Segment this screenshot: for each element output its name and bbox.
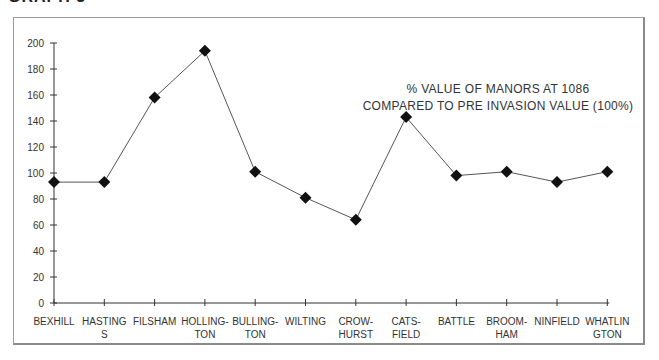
x-category-label: WHATLIN [585, 316, 629, 327]
data-point-diamond-marker [249, 166, 261, 178]
x-category-label: BEXHILL [33, 316, 75, 327]
x-category-label: HURST [339, 329, 373, 340]
y-tick-label: 80 [33, 194, 45, 205]
y-tick-label: 140 [27, 116, 44, 127]
y-tick-label: 200 [27, 38, 44, 49]
y-tick-label: 0 [38, 298, 44, 309]
chart-title-line: % VALUE OF MANORS AT 1086 [407, 82, 590, 96]
y-tick-label: 120 [27, 142, 44, 153]
x-category-label: HASTING [82, 316, 127, 327]
series-line [54, 51, 607, 220]
data-point-diamond-marker [601, 166, 613, 178]
x-category-label: BROOM- [486, 316, 527, 327]
data-point-diamond-marker [300, 192, 312, 204]
x-category-label: FIELD [392, 329, 420, 340]
x-category-label: S [101, 329, 108, 340]
x-category-label: GTON [593, 329, 622, 340]
x-category-label: HAM [496, 329, 518, 340]
x-category-label: NINFIELD [534, 316, 580, 327]
x-category-label: TON [245, 329, 266, 340]
x-category-label: CATS- [391, 316, 420, 327]
y-tick-label: 180 [27, 64, 44, 75]
x-category-label: BULLING- [232, 316, 278, 327]
data-point-diamond-marker [98, 176, 110, 188]
x-category-label: TON [194, 329, 215, 340]
line-chart: 020406080100120140160180200BEXHILLHASTIN… [0, 0, 659, 360]
x-category-label: FILSHAM [133, 316, 176, 327]
data-point-diamond-marker [48, 176, 60, 188]
y-tick-label: 100 [27, 168, 44, 179]
x-category-label: CROW- [338, 316, 373, 327]
x-category-label: HOLLING- [181, 316, 228, 327]
y-tick-label: 40 [33, 246, 45, 257]
y-tick-label: 160 [27, 90, 44, 101]
data-point-diamond-marker [551, 176, 563, 188]
y-tick-label: 20 [33, 272, 45, 283]
data-point-diamond-marker [350, 214, 362, 226]
y-tick-label: 60 [33, 220, 45, 231]
x-category-label: BATTLE [438, 316, 475, 327]
chart-title-line: COMPARED TO PRE INVASION VALUE (100%) [363, 99, 634, 113]
data-point-diamond-marker [501, 166, 513, 178]
x-category-label: WILTING [285, 316, 326, 327]
